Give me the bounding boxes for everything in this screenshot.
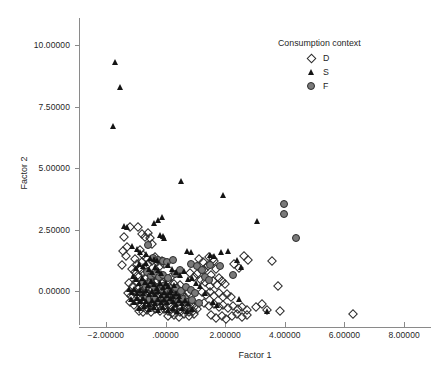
data-point-s bbox=[165, 262, 171, 268]
data-point-d bbox=[125, 297, 135, 307]
data-point-d bbox=[143, 259, 153, 269]
data-point-d bbox=[226, 292, 236, 302]
legend-swatch-shape bbox=[308, 69, 314, 75]
open-diamond-icon bbox=[304, 55, 318, 62]
data-point-f bbox=[150, 283, 158, 291]
data-point-d bbox=[138, 302, 148, 312]
data-point-s bbox=[139, 275, 145, 281]
data-point-d bbox=[189, 272, 199, 282]
data-point-s bbox=[160, 284, 166, 290]
data-point-d bbox=[257, 299, 267, 309]
data-point-d bbox=[134, 282, 144, 292]
data-point-d bbox=[155, 261, 165, 271]
y-tick bbox=[75, 45, 80, 46]
legend-item-f[interactable]: F bbox=[304, 79, 418, 93]
data-point-d bbox=[147, 239, 157, 249]
data-point-s bbox=[154, 285, 160, 291]
data-point-f bbox=[191, 289, 199, 297]
data-point-s bbox=[171, 282, 177, 288]
data-point-s bbox=[185, 300, 191, 306]
data-point-d bbox=[159, 301, 169, 311]
data-point-s bbox=[189, 306, 195, 312]
data-point-d bbox=[169, 310, 179, 320]
data-point-s bbox=[220, 192, 226, 198]
data-point-s bbox=[121, 223, 127, 229]
data-point-s bbox=[131, 299, 137, 305]
data-point-d bbox=[267, 256, 277, 266]
data-point-s bbox=[152, 300, 158, 306]
data-point-s bbox=[134, 295, 140, 301]
data-point-s bbox=[168, 287, 174, 293]
data-point-s bbox=[176, 293, 182, 299]
data-point-d bbox=[209, 291, 219, 301]
data-point-f bbox=[160, 294, 168, 302]
data-point-s bbox=[170, 293, 176, 299]
data-point-d bbox=[133, 259, 143, 269]
data-point-d bbox=[204, 252, 214, 262]
data-point-d bbox=[168, 303, 178, 313]
data-point-s bbox=[218, 249, 224, 255]
data-point-d bbox=[228, 301, 238, 311]
data-point-s bbox=[158, 299, 164, 305]
data-point-d bbox=[208, 254, 218, 264]
data-point-d bbox=[175, 308, 185, 318]
data-point-s bbox=[164, 292, 170, 298]
data-point-s bbox=[133, 265, 139, 271]
x-tick bbox=[225, 322, 226, 327]
legend-item-s[interactable]: S bbox=[304, 65, 418, 79]
data-point-s bbox=[136, 280, 142, 286]
data-point-f bbox=[182, 283, 190, 291]
data-point-d bbox=[118, 246, 128, 256]
y-axis-line bbox=[79, 18, 80, 325]
scatter-plot: 0.000002.500005.000007.5000010.00000 −2.… bbox=[0, 0, 441, 374]
y-tick-label: 5.00000 bbox=[39, 163, 70, 173]
data-point-d bbox=[179, 309, 189, 319]
data-point-d bbox=[275, 306, 285, 316]
data-point-d bbox=[161, 282, 171, 292]
data-point-f bbox=[138, 280, 146, 288]
data-point-s bbox=[130, 273, 136, 279]
data-point-f bbox=[169, 256, 177, 264]
data-point-s bbox=[170, 305, 176, 311]
data-point-d bbox=[211, 264, 221, 274]
x-tick-label: 4.00000 bbox=[269, 330, 300, 340]
data-point-d bbox=[144, 269, 154, 279]
data-point-d bbox=[156, 298, 166, 308]
data-point-s bbox=[182, 297, 188, 303]
data-point-f bbox=[155, 297, 163, 305]
data-point-d bbox=[166, 272, 176, 282]
data-point-d bbox=[201, 277, 211, 287]
data-point-f bbox=[187, 260, 195, 268]
data-point-d bbox=[184, 307, 194, 317]
data-point-d bbox=[133, 270, 143, 280]
data-point-d bbox=[141, 297, 151, 307]
data-point-d bbox=[214, 288, 224, 298]
legend-item-d[interactable]: D bbox=[304, 51, 418, 65]
data-point-d bbox=[119, 232, 129, 242]
data-point-d bbox=[137, 257, 147, 267]
data-point-s bbox=[193, 280, 199, 286]
data-point-d bbox=[177, 289, 187, 299]
data-point-s bbox=[143, 287, 149, 293]
data-point-d bbox=[147, 296, 157, 306]
data-point-d bbox=[197, 287, 207, 297]
legend-item-label: F bbox=[323, 81, 328, 91]
data-point-s bbox=[126, 286, 132, 292]
data-point-f bbox=[198, 266, 206, 274]
data-point-d bbox=[117, 260, 127, 270]
data-point-f bbox=[142, 283, 150, 291]
y-tick bbox=[75, 291, 80, 292]
data-point-d bbox=[175, 280, 185, 290]
data-point-d bbox=[163, 276, 173, 286]
data-point-s bbox=[157, 280, 163, 286]
data-point-d bbox=[155, 307, 165, 317]
data-point-d bbox=[126, 291, 136, 301]
data-point-d bbox=[150, 288, 160, 298]
data-point-f bbox=[169, 295, 177, 303]
data-point-f bbox=[174, 298, 182, 306]
data-point-s bbox=[189, 275, 195, 281]
data-point-d bbox=[218, 292, 228, 302]
data-point-s bbox=[161, 289, 167, 295]
data-point-d bbox=[164, 286, 174, 296]
data-point-d bbox=[180, 292, 190, 302]
